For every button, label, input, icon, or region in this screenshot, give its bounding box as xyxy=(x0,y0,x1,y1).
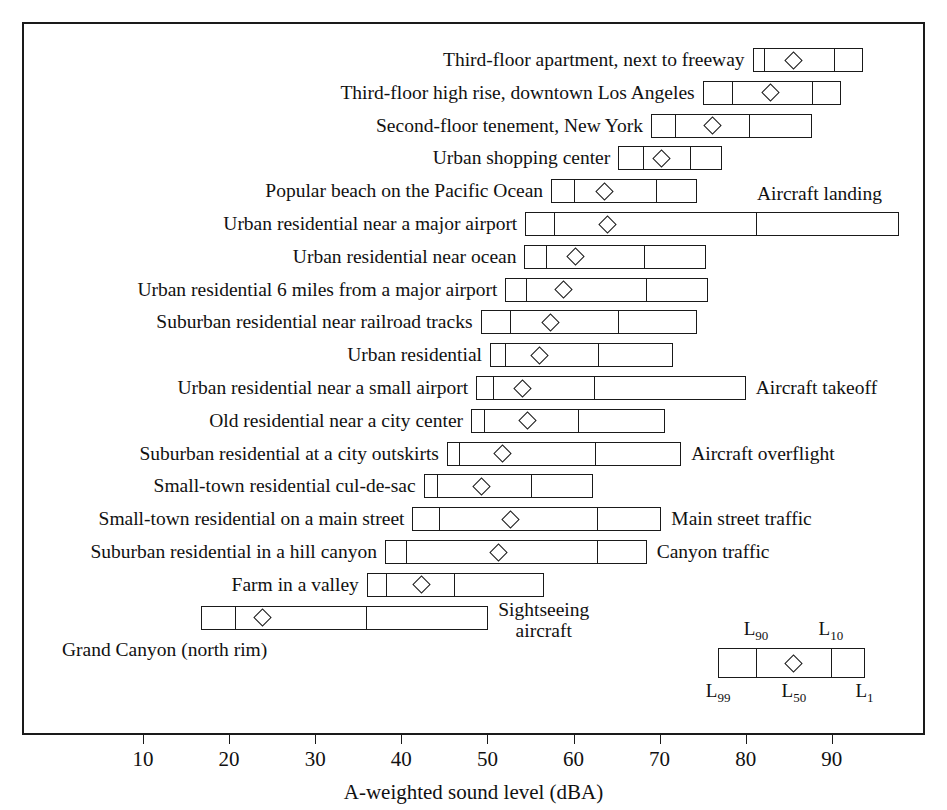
row-label: Second-floor tenement, New York xyxy=(376,116,643,136)
row-0-range-rect xyxy=(753,48,863,72)
row-label: Old residential near a city center xyxy=(209,411,463,431)
chart-row: Small-town residential cul-de-sac xyxy=(0,474,947,498)
x-tick-label-50: 50 xyxy=(477,747,498,772)
row-4-range-rect xyxy=(551,179,697,203)
x-tick-label-20: 20 xyxy=(219,747,240,772)
row-0-l90-divider xyxy=(764,48,765,72)
x-axis-title: A-weighted sound level (dBA) xyxy=(0,780,947,805)
row-10-l90-divider xyxy=(493,376,494,400)
row-12-l90-divider xyxy=(459,442,460,466)
x-tick-20 xyxy=(229,733,230,744)
row-1-box xyxy=(703,81,842,105)
x-tick-70 xyxy=(660,733,661,744)
x-tick-label-70: 70 xyxy=(649,747,670,772)
row-7-l90-divider xyxy=(526,278,527,302)
row-13-l90-divider xyxy=(437,474,438,498)
row-5-l10-divider xyxy=(756,212,757,236)
legend-l10-divider xyxy=(831,648,832,678)
row-8-l90-divider xyxy=(510,310,511,334)
row-14-l10-divider xyxy=(597,507,598,531)
row-3-l10-divider xyxy=(690,146,691,170)
row-0-l10-divider xyxy=(834,48,835,72)
row-label: Small-town residential on a main street xyxy=(99,509,405,529)
row-17-range-rect xyxy=(201,606,489,630)
row-15-box xyxy=(385,540,647,564)
x-tick-80 xyxy=(746,733,747,744)
row-label: Third-floor apartment, next to freeway xyxy=(443,50,745,70)
row-16-l90-divider xyxy=(386,573,387,597)
row-8-range-rect xyxy=(481,310,697,334)
row-3-box xyxy=(618,146,721,170)
row-note: Sightseeingaircraft xyxy=(498,598,589,640)
row-10-l10-divider xyxy=(594,376,595,400)
chart-row: Suburban residential at a city outskirts… xyxy=(0,442,947,466)
row-15-range-rect xyxy=(385,540,647,564)
row-12-l10-divider xyxy=(595,442,596,466)
legend-label-l50: L50 xyxy=(782,680,807,706)
legend-label-l99: L99 xyxy=(706,680,731,706)
row-9-l90-divider xyxy=(505,343,506,367)
row-note: Aircraft overflight xyxy=(691,444,834,464)
row-11-l90-divider xyxy=(484,409,485,433)
x-tick-90 xyxy=(832,733,833,744)
row-4-box xyxy=(551,179,697,203)
row-13-box xyxy=(424,474,594,498)
row-15-l10-divider xyxy=(597,540,598,564)
row-5-box xyxy=(525,212,899,236)
chart-row: Third-floor apartment, next to freeway xyxy=(0,48,947,72)
row-15-l90-divider xyxy=(406,540,407,564)
chart-row: Third-floor high rise, downtown Los Ange… xyxy=(0,81,947,105)
legend-label-l90: L90 xyxy=(744,618,769,644)
chart-row: Farm in a valley xyxy=(0,573,947,597)
row-10-box xyxy=(476,376,745,400)
x-tick-label-80: 80 xyxy=(735,747,756,772)
row-11-range-rect xyxy=(471,409,665,433)
row-9-box xyxy=(490,343,673,367)
row-17-box xyxy=(201,606,489,630)
chart-row: Second-floor tenement, New York xyxy=(0,114,947,138)
row-4-l10-divider xyxy=(656,179,657,203)
row-label: Third-floor high rise, downtown Los Ange… xyxy=(340,83,694,103)
row-6-l10-divider xyxy=(644,245,645,269)
row-2-box xyxy=(651,114,812,138)
x-axis-line xyxy=(24,733,923,735)
row-0-box xyxy=(753,48,863,72)
row-label: Grand Canyon (north rim) xyxy=(62,640,267,660)
chart-row: Small-town residential on a main streetM… xyxy=(0,507,947,531)
x-tick-60 xyxy=(574,733,575,744)
row-2-l90-divider xyxy=(675,114,676,138)
row-label: Suburban residential at a city outskirts xyxy=(139,444,438,464)
row-label: Urban residential 6 miles from a major a… xyxy=(137,280,497,300)
row-14-range-rect xyxy=(412,507,661,531)
row-7-l10-divider xyxy=(646,278,647,302)
row-6-l90-divider xyxy=(546,245,547,269)
row-9-range-rect xyxy=(490,343,673,367)
row-label: Urban residential near ocean xyxy=(293,247,517,267)
legend-label-l10: L10 xyxy=(819,618,844,644)
x-tick-50 xyxy=(487,733,488,744)
row-7-box xyxy=(505,278,707,302)
x-tick-10 xyxy=(143,733,144,744)
row-8-l10-divider xyxy=(618,310,619,334)
row-note: Aircraft takeoff xyxy=(756,378,877,398)
row-label: Urban residential xyxy=(347,345,482,365)
x-tick-label-90: 90 xyxy=(821,747,842,772)
row-5-range-rect xyxy=(525,212,899,236)
row-12-box xyxy=(447,442,681,466)
row-note: Aircraft landing xyxy=(757,184,882,204)
row-16-range-rect xyxy=(367,573,544,597)
row-16-l10-divider xyxy=(454,573,455,597)
chart-row: Urban residential 6 miles from a major a… xyxy=(0,278,947,302)
row-8-box xyxy=(481,310,697,334)
legend-label-l1: L1 xyxy=(855,680,873,706)
row-13-range-rect xyxy=(424,474,594,498)
row-1-l10-divider xyxy=(812,81,813,105)
row-14-l90-divider xyxy=(439,507,440,531)
row-13-l10-divider xyxy=(531,474,532,498)
chart-row: Urban residential xyxy=(0,343,947,367)
row-label: Urban residential near a small airport xyxy=(177,378,468,398)
row-label: Farm in a valley xyxy=(232,575,359,595)
row-12-range-rect xyxy=(447,442,681,466)
chart-row: Suburban residential near railroad track… xyxy=(0,310,947,334)
x-tick-40 xyxy=(401,733,402,744)
